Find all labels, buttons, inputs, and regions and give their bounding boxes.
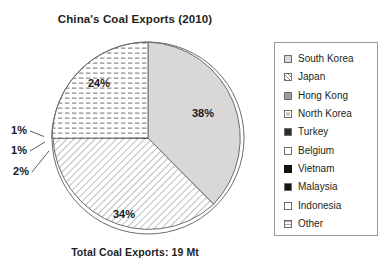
legend-swatch-icon-vietnam (284, 165, 292, 173)
legend-item-other: Other (284, 215, 377, 233)
legend-swatch-icon-belgium (284, 147, 292, 155)
legend-item-japan: Japan (284, 68, 377, 86)
legend-swatch-icon-indonesia (284, 202, 292, 210)
legend-swatch-icon-hong-kong (284, 92, 292, 100)
legend-label-indonesia: Indonesia (298, 201, 341, 211)
chart-title: China's Coal Exports (2010) (0, 13, 270, 25)
legend-item-belgium: Belgium (284, 141, 377, 159)
callout-turkey: 1% (11, 124, 44, 137)
legend-label-hong-kong: Hong Kong (298, 91, 348, 101)
legend-swatch-icon-japan (284, 73, 292, 81)
legend-label-belgium: Belgium (298, 146, 334, 156)
legend-label-vietnam: Vietnam (298, 164, 335, 174)
callout-layer: 1% 1% 2% (0, 41, 194, 235)
legend-swatch-icon-turkey (284, 128, 292, 136)
callout-label-hong-kong: 2% (13, 165, 29, 177)
legend-swatch-icon-south-korea (284, 55, 292, 63)
pie-chart-figure: China's Coal Exports (2010) (0, 0, 385, 268)
legend-item-hong-kong: Hong Kong (284, 87, 377, 105)
callout-north-korea: 1% (11, 142, 45, 156)
legend-label-malaysia: Malaysia (298, 182, 337, 192)
callout-label-north-korea: 1% (11, 144, 27, 156)
legend-item-north-korea: North Korea (284, 105, 377, 123)
legend-item-vietnam: Vietnam (284, 160, 377, 178)
legend-label-south-korea: South Korea (298, 54, 354, 64)
pie-plot-area: 38% 34% 24% 1% 1% 2% (51, 41, 245, 235)
legend-item-malaysia: Malaysia (284, 178, 377, 196)
callout-label-turkey: 1% (11, 124, 27, 136)
chart-caption: Total Coal Exports: 19 Mt (0, 246, 270, 258)
slice-label-south-korea: 38% (192, 107, 214, 119)
legend-swatch-icon-other (284, 220, 292, 228)
legend-label-turkey: Turkey (298, 127, 328, 137)
legend-label-japan: Japan (298, 72, 325, 82)
legend-label-other: Other (298, 219, 323, 229)
legend-swatch-icon-malaysia (284, 183, 292, 191)
legend-item-turkey: Turkey (284, 123, 377, 141)
legend-item-south-korea: South Korea (284, 50, 377, 68)
legend-label-north-korea: North Korea (298, 109, 352, 119)
legend-box: South Korea Japan Hong Kong North Korea … (274, 42, 378, 236)
legend-swatch-icon-north-korea (284, 110, 292, 118)
legend-item-indonesia: Indonesia (284, 196, 377, 214)
